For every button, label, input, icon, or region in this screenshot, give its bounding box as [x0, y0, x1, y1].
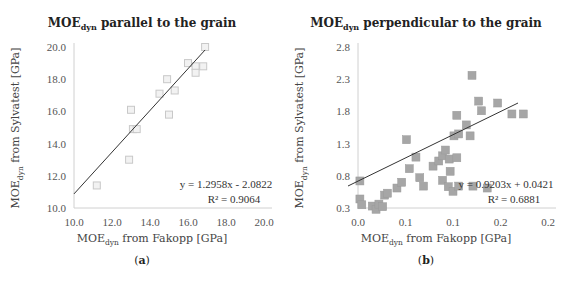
x-tick-label: 0.1 [446, 216, 460, 228]
data-point [128, 106, 135, 113]
y-tick-label: 2.3 [336, 73, 350, 85]
data-point [402, 136, 410, 144]
y-tick-label: 16.0 [47, 105, 67, 117]
x-tick-label: 10.0 [64, 216, 84, 228]
caption-letter: a [138, 254, 145, 267]
trendline-equation: y = 0.9203x + 0.0421 [459, 178, 554, 190]
x-tick-label: 14.0 [140, 216, 160, 228]
data-point [453, 154, 461, 162]
y-tick-label: 20.0 [47, 41, 67, 53]
chart-panel-a: MOEdyn parallel to the grain MOEdyn from… [0, 0, 284, 288]
y-tick-label: 14.0 [47, 138, 67, 150]
data-point [171, 87, 178, 94]
caption-close: ) [430, 254, 434, 267]
data-point [478, 107, 486, 115]
data-point [156, 90, 163, 97]
y-tick-label: 18.0 [47, 73, 67, 85]
data-point [358, 201, 366, 209]
chart-panel-b: MOEdyn perpendicular to the grain MOEdyn… [284, 0, 568, 288]
xlabel-main: MOE [77, 232, 105, 245]
data-point [166, 111, 173, 118]
x-tick-label: 0.1 [399, 216, 413, 228]
xlabel-rest: from Fakopp [GPa] [119, 232, 228, 245]
x-tick-label: 18.0 [216, 216, 236, 228]
panel-caption: (a) [0, 254, 284, 267]
trendline [348, 103, 518, 186]
r-squared-label: R² = 0.9064 [208, 193, 261, 205]
trendline [74, 50, 205, 194]
x-axis-label: MOEdyn from Fakopp [GPa] [284, 232, 568, 247]
x-tick-label: 16.0 [178, 216, 198, 228]
data-point [379, 203, 387, 211]
data-point [446, 167, 454, 175]
data-point [468, 71, 476, 79]
x-tick-label: 0.2 [494, 216, 508, 228]
data-point [445, 155, 453, 163]
y-tick-label: 1.3 [336, 138, 350, 150]
data-point [475, 97, 483, 105]
xlabel-main: MOE [361, 232, 389, 245]
caption-close: ) [146, 254, 150, 267]
data-point [466, 132, 474, 140]
y-tick-label: 0.3 [336, 202, 350, 214]
data-point [356, 177, 364, 185]
x-tick-label: 0.2 [541, 216, 555, 228]
x-tick-label: 12.0 [102, 216, 122, 228]
y-tick-label: 2.8 [336, 41, 350, 53]
x-tick-label: 20.0 [254, 216, 274, 228]
caption-letter: b [422, 254, 430, 267]
data-point [164, 76, 171, 83]
y-tick-label: 0.8 [336, 170, 350, 182]
panel-caption: (b) [284, 254, 568, 267]
data-point [398, 178, 406, 186]
data-point [192, 69, 199, 76]
y-tick-label: 10.0 [47, 202, 67, 214]
data-point [441, 146, 449, 154]
data-point [416, 174, 424, 182]
data-point [494, 99, 502, 107]
data-point [420, 182, 428, 190]
r-squared-label: R² = 0.6881 [488, 193, 541, 205]
data-point [126, 156, 133, 163]
data-point [200, 63, 207, 70]
data-points [356, 71, 527, 213]
x-axis-label: MOEdyn from Fakopp [GPa] [0, 232, 284, 247]
xlabel-subscript: dyn [105, 238, 119, 247]
data-point [383, 189, 391, 197]
data-point [519, 110, 527, 118]
trendline-equation: y = 1.2958x - 2.0822 [180, 178, 272, 190]
x-tick-label: 0.0 [351, 216, 365, 228]
data-point [133, 126, 140, 133]
data-point [508, 110, 516, 118]
data-point [453, 111, 461, 119]
y-tick-label: 1.8 [336, 105, 350, 117]
data-point [93, 182, 100, 189]
data-point [202, 44, 209, 51]
y-tick-label: 12.0 [47, 170, 67, 182]
xlabel-rest: from Fakopp [GPa] [403, 232, 512, 245]
data-point [405, 165, 413, 173]
xlabel-subscript: dyn [389, 238, 403, 247]
